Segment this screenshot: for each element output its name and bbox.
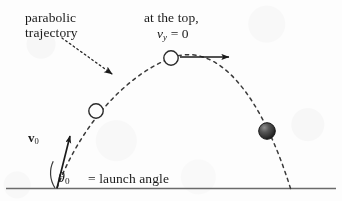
vy-equals-zero-text: = 0 [167,26,189,41]
launch-angle-text-label: = launch angle [88,171,169,186]
projectile-marker-apex [164,51,178,65]
trajectory-label-leader-arrow [62,38,112,74]
projectile-trajectory-figure: parabolic trajectory at the top, vy = 0 … [0,0,342,201]
launch-angle-symbol-label: θ0 [58,170,70,187]
parabolic-trajectory-label-line1: parabolic [25,10,78,25]
parabolic-trajectory-label: parabolic trajectory [25,10,78,40]
theta-subscript: 0 [65,176,70,186]
at-the-top-label: at the top, [144,10,199,25]
parabolic-trajectory-path [57,55,291,190]
projectile-marker-ascending [89,104,103,118]
initial-velocity-label: v0 [28,131,39,147]
projectile-marker-descending-ball [259,123,276,140]
theta-symbol: θ [58,170,65,185]
v0-subscript: 0 [35,136,39,146]
v0-symbol: v [28,130,35,145]
parabolic-trajectory-label-line2: trajectory [25,25,78,40]
vy-equals-zero-label: vy = 0 [157,26,189,43]
launch-angle-arc [49,161,57,188]
